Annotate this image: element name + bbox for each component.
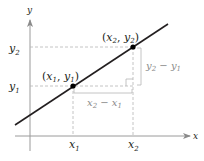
guide-lines [30,47,133,136]
point-1-dot [70,83,75,88]
y1-tick-label: y1 [8,80,20,95]
y-axis-label: y [26,5,33,15]
rise-bracket [137,48,141,85]
right-angle-marker [126,79,133,86]
point-2-dot [130,44,135,49]
main-line [15,24,168,125]
run-label: x2 − x1 [87,97,122,110]
y2-tick-label: y2 [8,42,20,57]
run-bracket [74,89,132,93]
x1-tick-label: x1 [69,138,80,153]
x2-tick-label: x2 [128,138,139,153]
x-axis-label: x [193,131,198,141]
rise-label: y2 − y1 [145,60,181,73]
slope-diagram: y x y2 y1 x1 x2 (x1, y1) (x2, y2) x2 − x… [0,0,204,161]
point-2-label: (x2, y2) [102,31,139,45]
point-1-label: (x1, y1) [42,70,79,84]
